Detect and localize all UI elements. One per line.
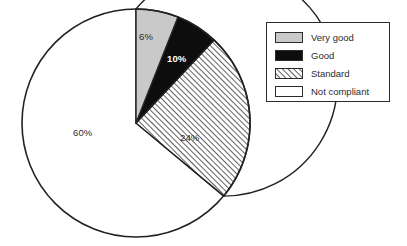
legend-label-good: Good — [311, 50, 334, 61]
legend-swatch-not-compliant-icon — [275, 86, 303, 97]
legend-item-not-compliant: Not compliant — [275, 83, 389, 100]
legend-item-very-good: Very good — [275, 29, 389, 46]
slice-value-label-standard: 24% — [180, 132, 199, 143]
legend-label-very-good: Very good — [311, 32, 354, 43]
legend-label-standard: Standard — [311, 68, 350, 79]
slice-value-label-good: 10% — [167, 53, 186, 64]
slice-value-label-not-compliant: 60% — [73, 127, 92, 138]
chart-legend: Very good Good Standard Not compliant — [266, 22, 390, 102]
legend-item-standard: Standard — [275, 65, 389, 82]
pie-chart-screenshot: 6% 10% 24% 60% Very good Good Standard N… — [0, 0, 407, 246]
slice-value-label-very-good: 6% — [139, 31, 153, 42]
legend-swatch-standard-icon — [275, 68, 303, 79]
legend-swatch-good-icon — [275, 50, 303, 61]
legend-item-good: Good — [275, 47, 389, 64]
legend-label-not-compliant: Not compliant — [311, 86, 369, 97]
legend-swatch-very-good-icon — [275, 32, 303, 43]
